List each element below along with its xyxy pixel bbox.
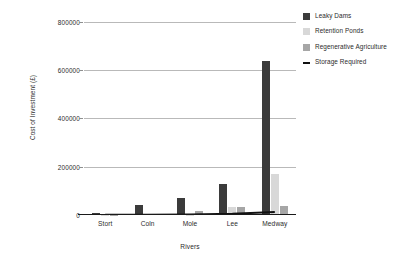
y-tick-label: 800000 [58, 19, 80, 26]
x-tick-label: Stort [84, 220, 126, 227]
legend-item-label: Leaky Dams [315, 12, 351, 20]
x-axis-baseline [78, 214, 296, 215]
tick-mark [79, 167, 83, 168]
plot-area [84, 22, 296, 215]
bar-groups [84, 22, 296, 215]
tick-mark [79, 70, 83, 71]
x-tick-label: Coln [126, 220, 168, 227]
x-tick-label: Lee [211, 220, 253, 227]
bar [271, 174, 279, 215]
legend-item[interactable]: Regenerative Agriculture [303, 43, 413, 51]
chart-container: Cost of Investment (£) 800000 600000 400… [0, 0, 413, 263]
y-axis-tick-labels: 800000 600000 400000 200000 0 [26, 0, 80, 263]
chart-legend: Leaky DamsRetention PondsRegenerative Ag… [303, 12, 413, 74]
bar [177, 198, 185, 215]
y-tick-label: 400000 [58, 115, 80, 122]
y-tick-label: 600000 [58, 67, 80, 74]
y-tick-label: 200000 [58, 164, 80, 171]
x-axis-tick-labels: StortColnMoleLeeMedway [84, 220, 296, 227]
legend-item-label: Storage Required [315, 58, 366, 66]
square-swatch-icon [303, 13, 310, 20]
x-axis-title: Rivers [84, 243, 296, 250]
square-swatch-icon [303, 44, 310, 51]
bar-group [84, 22, 126, 215]
legend-item[interactable]: Retention Ponds [303, 27, 413, 35]
bar [262, 61, 270, 215]
bar-group [254, 22, 296, 215]
x-tick-label: Medway [254, 220, 296, 227]
tick-mark [79, 22, 83, 23]
bar-group [169, 22, 211, 215]
legend-item-label: Regenerative Agriculture [315, 43, 387, 51]
line-swatch-icon [303, 62, 310, 64]
y-tick-label: 0 [76, 212, 80, 219]
legend-item[interactable]: Storage Required [303, 58, 413, 66]
x-tick-label: Mole [169, 220, 211, 227]
tick-mark [79, 118, 83, 119]
square-swatch-icon [303, 28, 310, 35]
bar [219, 184, 227, 215]
legend-item[interactable]: Leaky Dams [303, 12, 413, 20]
bar-group [126, 22, 168, 215]
legend-item-label: Retention Ponds [315, 27, 363, 35]
bar-group [211, 22, 253, 215]
